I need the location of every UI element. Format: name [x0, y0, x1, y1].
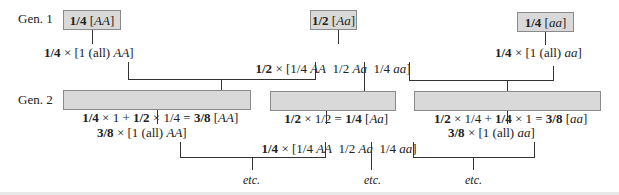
gen1-box-Aa: 1/2 [Aa]	[310, 10, 357, 30]
gen2-box-Aa: 1/2 × 1/2 = 1/4 [Aa]	[270, 91, 396, 111]
gen2-box-aa: 1/2 × 1/4 + 1/4 × 1 = 3/8 [aa]	[414, 91, 601, 111]
gen1-offspring-Aa: 1/2 × [1/4 AA 1/2 Aa 1/4 aa]	[249, 45, 411, 77]
bottom-strip	[0, 192, 619, 195]
gen1-offspring-AA: 1/4 × [1 (all) AA]	[44, 45, 134, 61]
etc-label-middle: etc.	[364, 173, 381, 187]
gen2-box-AA: 1/4 × 1 + 1/2 × 1/4 = 3/8 [AA]	[63, 90, 251, 110]
gen1-box-aa: 1/4 [aa]	[517, 12, 574, 32]
gen2-offspring-aa: 3/8 × [1 (all) aa]	[448, 125, 535, 141]
gen1-label: Gen. 1	[18, 11, 53, 27]
etc-label-left: etc.	[243, 173, 260, 187]
gen1-offspring-aa: 1/4 × [1 (all) aa]	[495, 45, 582, 61]
etc-label-right: etc.	[465, 173, 482, 187]
gen2-label: Gen. 2	[18, 92, 53, 108]
gen2-offspring-Aa: 1/4 × [1/4 AA 1/2 Aa 1/4 aa]	[255, 125, 417, 157]
gen2-offspring-AA: 3/8 × [1 (all) AA]	[97, 125, 187, 141]
gen1-box-AA: 1/4 [AA]	[63, 10, 121, 30]
